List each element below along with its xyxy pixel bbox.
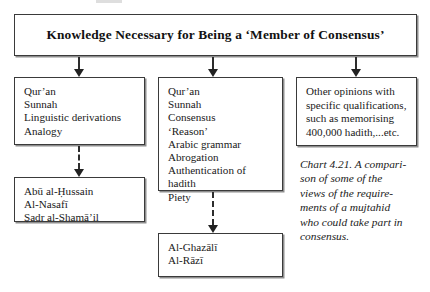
list-item: Sunnah — [24, 98, 144, 111]
list-item: Arabic grammar — [168, 138, 282, 151]
middle-column-requirements-box: Qur’an Sunnah Consensus ‘Reason’ Arabic … — [158, 77, 283, 191]
list-item: Qur’an — [24, 85, 144, 98]
list-item: specific qualifications, — [306, 99, 416, 113]
list-item: Al-Nasafī — [24, 198, 144, 211]
list-item: Abrogation — [168, 151, 282, 164]
arrow-stem — [78, 146, 80, 169]
arrow-head — [208, 69, 218, 77]
caption-line: consensus. — [300, 229, 426, 243]
list-item: Consensus — [168, 111, 282, 124]
arrow-header-to-left-icon — [74, 57, 85, 77]
list-item: Al-Rāzī — [168, 254, 282, 267]
arrow-head — [351, 69, 361, 77]
header-box: Knowledge Necessary for Being a ‘Member … — [14, 14, 417, 56]
list-item: Other opinions with — [306, 85, 416, 99]
header-title: Knowledge Necessary for Being a ‘Member … — [46, 27, 384, 43]
scan-artifact — [96, 0, 122, 3]
arrow-stem — [212, 192, 214, 225]
arrow-head — [74, 69, 84, 77]
list-item: Authentication of — [168, 164, 282, 177]
middle-column-scholars-box: Al-Ghazālī Al-Rāzī — [158, 233, 283, 277]
chart-figure-page: Knowledge Necessary for Being a ‘Member … — [0, 0, 430, 292]
caption-line: son of some of the — [300, 171, 426, 185]
list-item: Al-Ghazālī — [168, 241, 282, 254]
caption-line: who could take part in — [300, 215, 426, 229]
caption-line: ments of a mujtahid — [300, 200, 426, 214]
list-item: ‘Reason’ — [168, 125, 282, 138]
list-item: hadith — [168, 177, 282, 190]
list-item: 400,000 hadith,...etc. — [306, 126, 416, 140]
arrow-stem — [355, 57, 357, 69]
left-column-scholars-box: Abū al-Ḥussain Al-Nasafī Ṣadr al-Shamā’i… — [14, 177, 145, 222]
list-item: Abū al-Ḥussain — [24, 185, 144, 198]
arrow-stem — [212, 57, 214, 69]
caption-line: views of the require- — [300, 186, 426, 200]
list-item: Analogy — [24, 125, 144, 138]
arrow-middle-requirements-to-scholars-icon — [208, 192, 219, 233]
left-column-requirements-box: Qur’an Sunnah Linguistic derivations Ana… — [14, 77, 145, 145]
list-item: Qur’an — [168, 85, 282, 98]
list-item: such as memorising — [306, 112, 416, 126]
arrow-stem — [78, 57, 80, 69]
arrow-head — [74, 169, 84, 177]
chart-caption: Chart 4.21. A compari- son of some of th… — [300, 157, 426, 243]
arrow-header-to-middle-icon — [208, 57, 219, 77]
arrow-head — [208, 225, 218, 233]
caption-line: Chart 4.21. A compari- — [300, 157, 426, 171]
list-item: Piety — [168, 191, 282, 204]
arrow-header-to-right-icon — [351, 57, 362, 77]
arrow-left-requirements-to-scholars-icon — [74, 146, 85, 177]
list-item: Ṣadr al-Shamā’il — [24, 211, 144, 224]
list-item: Sunnah — [168, 98, 282, 111]
list-item: Linguistic derivations — [24, 111, 144, 124]
right-column-other-opinions-box: Other opinions with specific qualificati… — [296, 77, 417, 146]
